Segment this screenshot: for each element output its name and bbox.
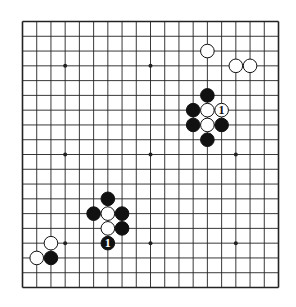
star-point <box>149 64 153 68</box>
black-stone: 1 <box>101 236 115 250</box>
white-stone <box>101 222 115 236</box>
white-stone <box>44 236 58 250</box>
star-point <box>63 153 67 157</box>
black-stone <box>215 118 229 132</box>
move-number-label: 1 <box>219 103 225 117</box>
star-point <box>63 64 67 68</box>
white-stone <box>201 44 215 58</box>
black-stone <box>201 133 215 147</box>
black-stone <box>115 207 129 221</box>
star-point <box>234 153 238 157</box>
white-stone <box>101 207 115 221</box>
white-stone <box>201 103 215 117</box>
white-stone <box>30 251 44 265</box>
black-stone <box>115 222 129 236</box>
white-stone: 1 <box>215 103 229 117</box>
black-stone <box>186 118 200 132</box>
white-stone <box>243 59 257 73</box>
white-stone <box>229 59 243 73</box>
star-point <box>63 241 67 245</box>
black-stone <box>101 192 115 206</box>
black-stone <box>201 89 215 103</box>
black-stone <box>44 251 58 265</box>
star-point <box>149 153 153 157</box>
white-stone <box>201 118 215 132</box>
move-number-label: 1 <box>105 236 111 250</box>
star-point <box>149 241 153 245</box>
star-point <box>234 241 238 245</box>
black-stone <box>87 207 101 221</box>
go-board: 11 <box>0 0 296 307</box>
black-stone <box>186 103 200 117</box>
